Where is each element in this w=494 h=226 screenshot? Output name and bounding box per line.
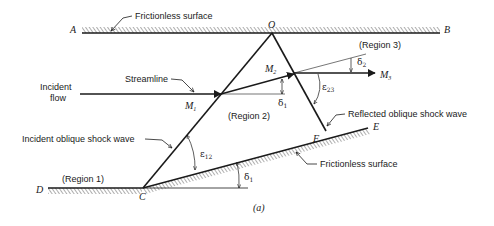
leader-arrow-icon	[296, 152, 317, 164]
region3-reference-line	[294, 54, 366, 73]
incident-flow-label-line1: Incident	[40, 82, 72, 92]
M1-symbol: M1	[184, 100, 196, 112]
streamline-label: Streamline	[125, 74, 168, 84]
leader-arrow-icon	[145, 139, 172, 148]
oblique-shock-reflection-diagram: A B O Frictionless surface D C (Region 1…	[0, 0, 494, 226]
top-wall	[82, 27, 440, 33]
point-E-label: E	[372, 121, 379, 132]
lower-wall-DC	[48, 188, 143, 194]
region-2-label: (Region 2)	[228, 111, 270, 121]
point-A-label: A	[69, 24, 77, 35]
epsilon12-arc	[187, 135, 195, 170]
leader-arrow-icon	[171, 79, 194, 92]
point-B-label: B	[444, 24, 450, 35]
reflected-shock-line	[272, 33, 326, 131]
epsilon23-symbol: ε23	[322, 82, 334, 93]
incident-shock-label: Incident oblique shock wave	[22, 134, 135, 144]
point-D-label: D	[35, 184, 44, 195]
frictionless-surface-top-label: Frictionless surface	[135, 11, 213, 21]
point-F-label: F	[312, 133, 320, 144]
M3-symbol: M3	[379, 69, 391, 81]
region-3-label: (Region 3)	[359, 40, 401, 50]
region2-streamline	[221, 74, 294, 94]
leader-arrow-icon	[327, 114, 345, 126]
figure-caption: (a)	[253, 202, 265, 214]
epsilon12-symbol: ε12	[200, 149, 212, 160]
M2-symbol: M2	[264, 63, 276, 75]
incident-flow-label-line2: flow	[50, 93, 67, 103]
epsilon23-arc	[314, 74, 320, 104]
delta2-symbol: δ2	[357, 57, 366, 68]
region-1-label: (Region 1)	[62, 174, 104, 184]
point-O-label: O	[268, 19, 275, 30]
reflected-shock-label: Reflected oblique shock wave	[348, 109, 467, 119]
delta1-upper-symbol: δ1	[278, 98, 287, 109]
frictionless-surface-bottom-label: Frictionless surface	[320, 159, 398, 169]
delta1-lower-symbol: δ1	[244, 172, 253, 183]
